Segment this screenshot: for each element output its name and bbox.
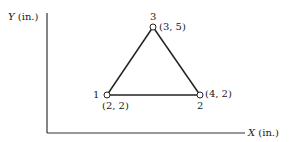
node-3-coords: (3, 5)	[159, 22, 186, 32]
y-axis-var: Y	[8, 11, 15, 22]
x-axis-label: X (in.)	[248, 128, 279, 138]
x-axis-unit: (in.)	[258, 127, 279, 138]
node-3-marker	[150, 24, 156, 30]
node-2-id: 2	[197, 101, 203, 111]
diagram-canvas	[0, 0, 290, 142]
node-1-id: 1	[93, 90, 99, 100]
x-axis-var: X	[248, 127, 255, 138]
node-2-marker	[197, 92, 203, 98]
node-2-coords: (4, 2)	[205, 89, 232, 99]
element-edge-3-2	[153, 27, 200, 95]
element-edge-1-3	[107, 27, 153, 95]
y-axis-unit: (in.)	[18, 11, 39, 22]
node-3-id: 3	[150, 12, 156, 22]
y-axis-label: Y (in.)	[8, 12, 38, 22]
node-1-marker	[104, 92, 110, 98]
node-1-coords: (2, 2)	[102, 101, 129, 111]
